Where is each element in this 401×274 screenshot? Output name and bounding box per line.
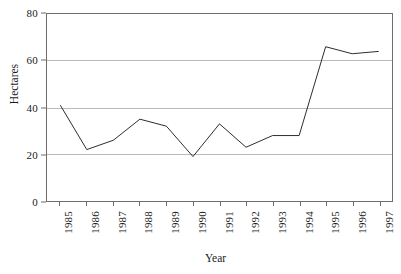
y-tick-label: 60 [27,55,38,66]
x-tick-label: 1995 [330,211,341,234]
line-chart: Hectares 020406080 198519861987198819891… [0,0,401,274]
x-tick-label: 1989 [170,211,181,234]
x-axis-title: Year [0,252,401,265]
x-tick-mark [193,202,194,206]
x-tick-label: 1993 [277,211,288,234]
x-tick-mark [59,202,60,206]
x-tick-mark [246,202,247,206]
x-axis: 1985198619871988198919901991199219931994… [0,202,401,252]
x-tick-mark [220,202,221,206]
x-tick-label: 1996 [357,211,368,234]
x-tick-label: 1994 [304,211,315,234]
x-tick-label: 1997 [384,211,395,234]
x-tick-mark [380,202,381,206]
x-tick-mark [300,202,301,206]
x-tick-mark [273,202,274,206]
x-tick-mark [326,202,327,206]
x-tick-label: 1987 [117,211,128,234]
x-tick-mark [139,202,140,206]
x-tick-mark [86,202,87,206]
y-tick-label: 20 [27,149,38,160]
x-tick-label: 1992 [250,211,261,234]
x-tick-label: 1985 [63,211,74,234]
plot-area [46,13,393,202]
series-line [60,47,378,157]
x-tick-mark [353,202,354,206]
x-tick-label: 1988 [143,211,154,234]
x-tick-mark [113,202,114,206]
x-tick-label: 1990 [197,211,208,234]
y-tick-label: 80 [27,8,38,19]
x-tick-label: 1991 [224,211,235,234]
x-tick-label: 1986 [90,211,101,234]
y-tick-label: 40 [27,102,38,113]
series-hectares [47,14,392,201]
x-tick-mark [166,202,167,206]
